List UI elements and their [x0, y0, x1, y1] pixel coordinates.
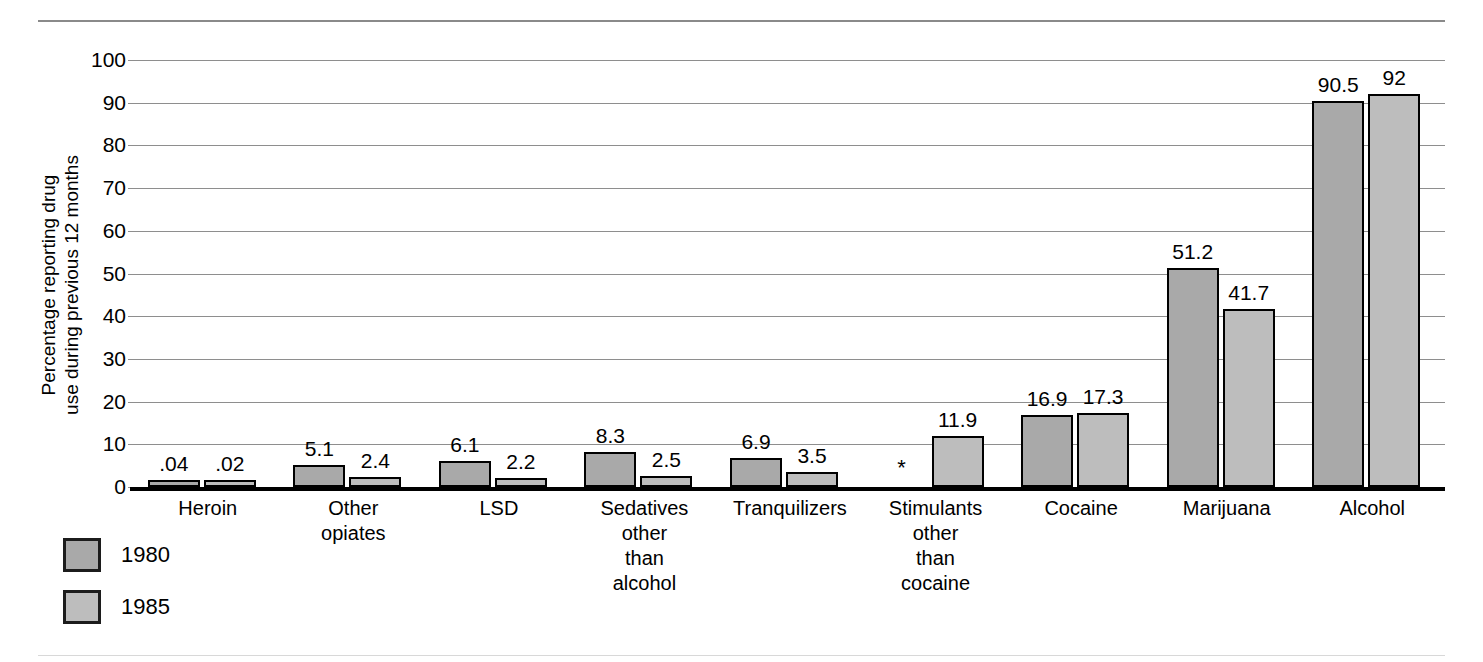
y-tick-100: 100	[80, 49, 126, 70]
legend-swatch-1985	[63, 590, 101, 624]
bar-1985[interactable]	[1223, 309, 1275, 487]
legend-label-1980: 1980	[121, 544, 170, 566]
bar-1985[interactable]	[495, 478, 547, 487]
y-tick-0: 0	[80, 476, 126, 497]
legend-label-1985: 1985	[121, 596, 170, 618]
bar-value-label: 11.9	[918, 409, 998, 430]
bar-group: 16.917.3	[1021, 60, 1129, 487]
y-tick-60: 60	[80, 220, 126, 241]
bar-group: *11.9	[876, 60, 984, 487]
bar-group: 8.32.5	[584, 60, 692, 487]
legend-item-1980[interactable]: 1980	[63, 538, 170, 572]
no-data-asterisk: *	[876, 461, 928, 475]
top-divider-rule	[38, 20, 1445, 22]
y-tick-10: 10	[80, 433, 126, 454]
bar-group: 5.12.4	[293, 60, 401, 487]
bar-group: .04.02	[148, 60, 256, 487]
x-axis-baseline	[130, 487, 1445, 491]
plot-area: .04.025.12.46.12.28.32.56.93.5*11.916.91…	[135, 60, 1445, 487]
bar-value-label: 3.5	[772, 445, 852, 466]
bar-value-label: 8.3	[570, 425, 650, 446]
chart-page: Percentage reporting drug use during pre…	[0, 0, 1483, 662]
bar-group: 6.93.5	[730, 60, 838, 487]
bar-value-label: 51.2	[1153, 241, 1233, 262]
bar-1980[interactable]	[1312, 101, 1364, 487]
y-tick-40: 40	[80, 305, 126, 326]
legend-item-1985[interactable]: 1985	[63, 590, 170, 624]
bar-1985[interactable]	[1077, 413, 1129, 487]
y-tick-30: 30	[80, 348, 126, 369]
bar-value-label: 92	[1354, 67, 1434, 88]
legend-swatch-1980	[63, 538, 101, 572]
bar-1985[interactable]	[349, 477, 401, 487]
bar-value-label: 41.7	[1209, 282, 1289, 303]
bar-value-label: 17.3	[1063, 386, 1143, 407]
y-tick-20: 20	[80, 391, 126, 412]
bar-group: 90.592	[1312, 60, 1420, 487]
y-tick-50: 50	[80, 263, 126, 284]
bar-group: 51.241.7	[1167, 60, 1275, 487]
bottom-edge-rule	[38, 655, 1445, 656]
bar-1980[interactable]	[1021, 415, 1073, 487]
x-label-alcohol: Alcohol	[1279, 496, 1465, 521]
bar-1985[interactable]	[640, 476, 692, 487]
bar-group: 6.12.2	[439, 60, 547, 487]
bar-1985[interactable]	[786, 472, 838, 487]
y-tick-90: 90	[80, 92, 126, 113]
bar-value-label: .02	[190, 453, 270, 474]
bar-1985[interactable]	[932, 436, 984, 487]
bar-1985[interactable]	[204, 480, 256, 487]
y-tick-70: 70	[80, 177, 126, 198]
bar-1980[interactable]	[148, 480, 200, 487]
bar-value-label: 2.2	[481, 451, 561, 472]
y-axis-title: Percentage reporting drug use during pre…	[37, 75, 83, 495]
bar-1985[interactable]	[1368, 94, 1420, 487]
y-tick-80: 80	[80, 134, 126, 155]
bar-value-label: 2.4	[335, 450, 415, 471]
bar-value-label: 2.5	[626, 449, 706, 470]
